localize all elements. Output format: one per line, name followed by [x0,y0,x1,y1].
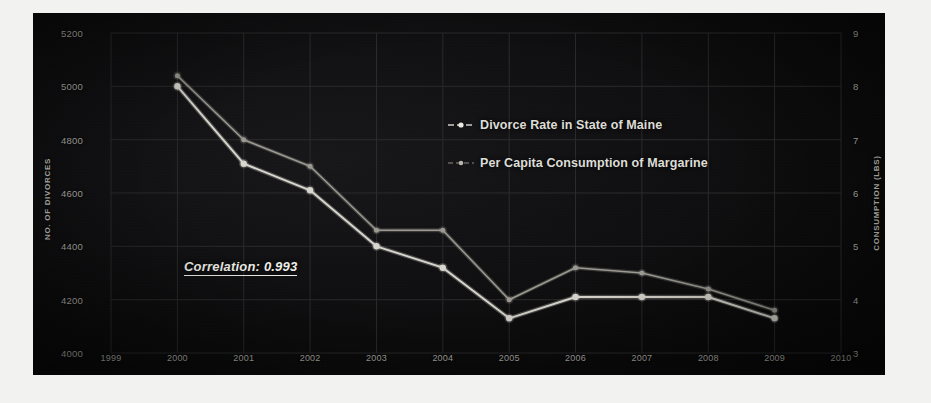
y-axis-left-tick-label: 5000 [61,81,83,92]
y-axis-left-tick-label: 4800 [61,134,83,145]
legend-line-dot-icon [448,158,474,168]
x-axis-tick-label: 1999 [101,353,122,363]
chart-panel: 5200500048004600440042004000 9876543 199… [33,13,885,375]
legend-line-dot-icon [448,120,474,130]
x-axis-tick-label: 2002 [300,353,321,363]
y-axis-left-title: NO. OF DIVORCES [43,158,52,240]
data-series-layer [33,13,885,375]
x-axis-tick-label: 2001 [233,353,254,363]
chart-figure: 5200500048004600440042004000 9876543 199… [0,0,931,403]
x-axis-tick-label: 2008 [698,353,719,363]
y-axis-right-tick-label: 8 [853,81,858,92]
x-axis-tick-label: 2005 [499,353,520,363]
y-axis-right-tick-label: 5 [853,241,858,252]
y-axis-right-tick-label: 3 [853,348,858,359]
legend-item-divorce-rate[interactable]: Divorce Rate in State of Maine [448,118,662,132]
y-axis-right-tick-label: 9 [853,28,858,39]
x-axis-tick-label: 2006 [565,353,586,363]
x-axis-tick-label: 2007 [631,353,652,363]
x-axis-tick-label: 2004 [432,353,453,363]
y-axis-right-tick-label: 6 [853,188,858,199]
correlation-annotation: Correlation: 0.993 [184,259,297,276]
x-axis-tick-label: 2010 [831,353,852,363]
legend-label-divorce-rate: Divorce Rate in State of Maine [480,118,662,132]
x-axis-tick-label: 2000 [167,353,188,363]
x-axis-tick-label: 2003 [366,353,387,363]
y-axis-right-title: CONSUMPTION (LBS) [872,155,881,250]
y-axis-left-tick-label: 5200 [61,28,83,39]
y-axis-left-tick-label: 4400 [61,241,83,252]
x-axis-tick-label: 2009 [764,353,785,363]
y-axis-left-tick-label: 4600 [61,188,83,199]
legend-label-margarine: Per Capita Consumption of Margarine [480,156,708,170]
y-axis-left-tick-label: 4000 [61,348,83,359]
y-axis-right-tick-label: 7 [853,134,858,145]
y-axis-left-tick-label: 4200 [61,294,83,305]
y-axis-right-tick-label: 4 [853,294,858,305]
legend-item-margarine[interactable]: Per Capita Consumption of Margarine [448,156,708,170]
